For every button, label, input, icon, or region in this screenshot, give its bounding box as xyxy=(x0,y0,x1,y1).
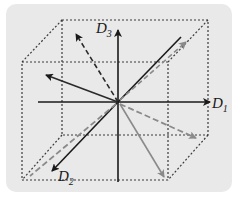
label-d1: D1 xyxy=(211,95,228,114)
vector-v5 xyxy=(120,104,196,138)
vector-v3 xyxy=(118,37,181,102)
vector-v1 xyxy=(46,75,118,102)
cube-wireframe xyxy=(22,20,208,180)
vectors xyxy=(30,34,196,177)
vector-v6 xyxy=(120,104,164,177)
vector-diagram: D3 D1 D2 xyxy=(0,0,239,199)
vector-v2 xyxy=(76,34,118,102)
vector-v4 xyxy=(120,42,186,100)
label-d2: D2 xyxy=(57,168,74,187)
vector-v7 xyxy=(30,104,116,176)
label-d3: D3 xyxy=(95,20,112,39)
